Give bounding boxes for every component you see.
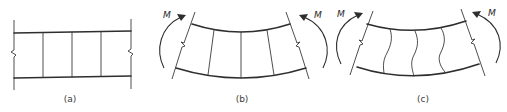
arrowhead-icon <box>299 14 308 21</box>
panel-c: M M (c) <box>337 8 501 104</box>
section-line <box>208 30 214 75</box>
caption-c: (c) <box>417 94 429 104</box>
left-cut-line <box>11 20 16 90</box>
top-edge <box>367 21 466 30</box>
bottom-edge <box>357 64 479 76</box>
arrowhead-icon <box>472 11 481 18</box>
moment-label-right: M <box>488 8 496 18</box>
moment-arrow-left <box>337 15 358 64</box>
moment-label-right: M <box>314 10 322 20</box>
warped-section-line <box>383 29 391 73</box>
moment-arrow-right <box>304 17 327 68</box>
arrowhead-icon <box>354 12 363 19</box>
section-line <box>267 30 274 75</box>
arrowhead-icon <box>177 14 186 21</box>
moment-label-left: M <box>163 10 171 20</box>
caption-b: (b) <box>236 94 249 104</box>
top-edge <box>14 31 131 33</box>
caption-a: (a) <box>64 94 77 104</box>
top-edge <box>192 24 290 32</box>
panel-a: (a) <box>11 19 133 104</box>
warped-section-line <box>439 28 445 72</box>
right-cut-line <box>128 19 133 89</box>
beam-bending-diagram: (a) M M (b) M M <box>0 0 507 112</box>
warped-section-line <box>412 31 418 76</box>
moment-label-left: M <box>337 9 345 19</box>
panel-b: M M (b) <box>160 10 327 104</box>
bottom-edge <box>14 76 131 78</box>
left-cut-line <box>350 11 373 75</box>
left-cut-line <box>172 12 195 79</box>
moment-arrow-right <box>477 14 500 63</box>
